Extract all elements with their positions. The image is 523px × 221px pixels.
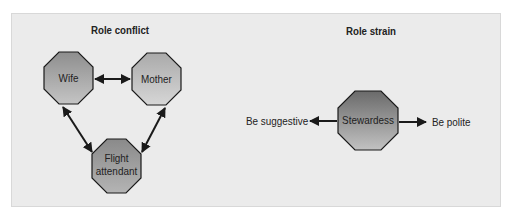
be-suggestive-label: Be suggestive bbox=[246, 115, 308, 127]
role-strain-title: Role strain bbox=[346, 25, 396, 37]
flight-attendant-label-line1: Flight bbox=[94, 152, 138, 165]
flight-attendant-node-label: Flight attendant bbox=[94, 152, 138, 178]
mother-node-label: Mother bbox=[134, 73, 178, 86]
flight-attendant-label-line2: attendant bbox=[94, 165, 138, 178]
wife-flight-attendant-arrow bbox=[63, 107, 92, 152]
be-polite-label: Be polite bbox=[432, 116, 471, 128]
diagram-graphics bbox=[0, 0, 523, 221]
stewardess-node-label: Stewardess bbox=[337, 114, 398, 127]
role-conflict-title: Role conflict bbox=[91, 24, 149, 36]
mother-flight-attendant-arrow bbox=[142, 108, 165, 152]
wife-node-label: Wife bbox=[46, 72, 90, 85]
